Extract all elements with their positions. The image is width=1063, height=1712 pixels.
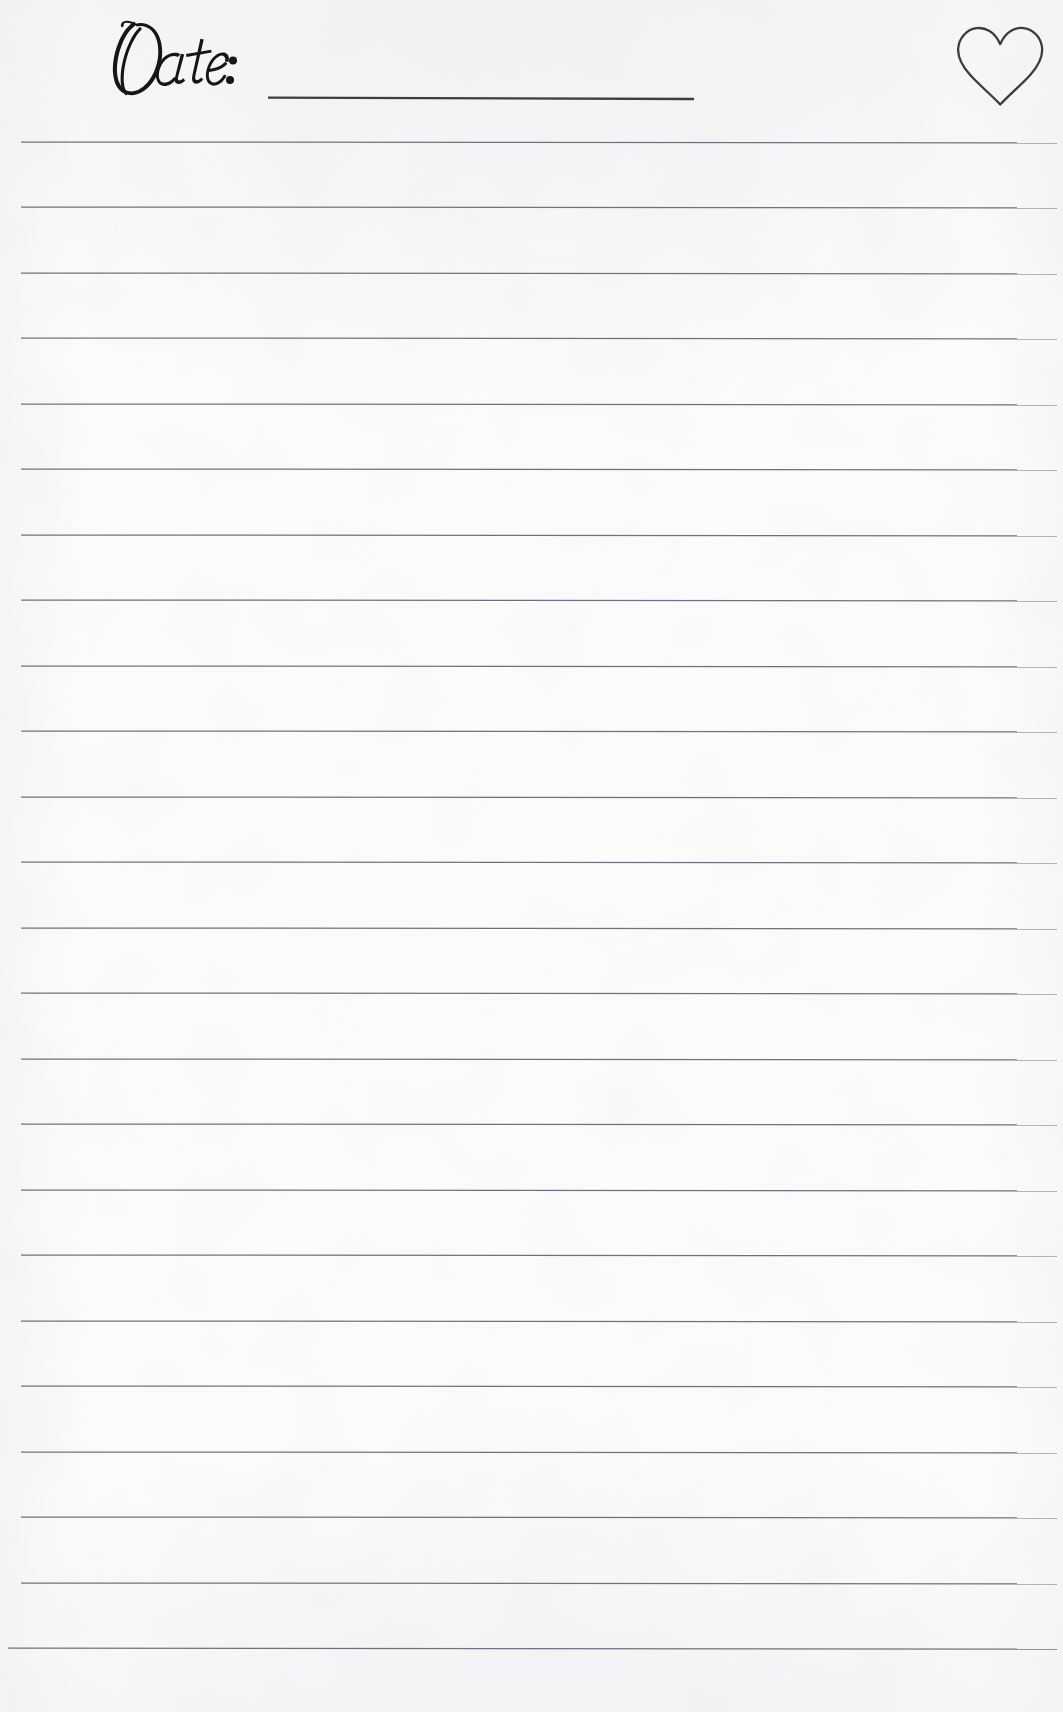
rule-line [0,206,1063,209]
write-zone[interactable] [22,408,1052,470]
write-zone[interactable] [22,1194,1052,1256]
write-zone[interactable] [22,1390,1052,1452]
rule-line [0,337,1063,340]
rule-line [0,1385,1063,1388]
write-zone[interactable] [22,1456,1052,1518]
rule-line [0,796,1063,799]
rule-line [0,1516,1063,1519]
write-zone[interactable] [22,735,1052,797]
write-zone[interactable] [22,1652,1052,1707]
write-zone[interactable] [22,211,1052,273]
write-zone[interactable] [22,539,1052,601]
rule-line [0,730,1063,733]
ruled-lines-area [0,0,1063,1712]
rule-line [0,1320,1063,1323]
rule-line [0,534,1063,537]
rule-line [0,927,1063,930]
rule-line [0,861,1063,864]
rule-line [0,1647,1063,1650]
write-zone[interactable] [22,342,1052,404]
write-zone[interactable] [22,866,1052,928]
rule-line [0,1058,1063,1061]
rule-line [0,665,1063,668]
journal-page: Date: [0,0,1063,1712]
rule-line [0,1582,1063,1585]
write-zone[interactable] [22,1587,1052,1649]
write-zone[interactable] [22,277,1052,339]
rule-line [0,599,1063,602]
write-zone[interactable] [22,473,1052,535]
rule-line [0,468,1063,471]
write-zone[interactable] [22,1521,1052,1583]
write-zone[interactable] [22,146,1052,208]
write-zone[interactable] [22,604,1052,666]
rule-line [0,272,1063,275]
rule-line [0,1123,1063,1126]
write-zone[interactable] [22,1063,1052,1125]
rule-line [0,992,1063,995]
write-zone[interactable] [22,670,1052,732]
write-zone[interactable] [22,801,1052,863]
write-zone[interactable] [22,1259,1052,1321]
rule-line [0,141,1063,144]
rule-line [0,403,1063,406]
rule-line [0,1189,1063,1192]
write-zone[interactable] [22,997,1052,1059]
write-zone[interactable] [22,1325,1052,1387]
rule-line [0,1451,1063,1454]
write-zone[interactable] [22,932,1052,994]
write-zone[interactable] [22,1128,1052,1190]
rule-line [0,1254,1063,1257]
